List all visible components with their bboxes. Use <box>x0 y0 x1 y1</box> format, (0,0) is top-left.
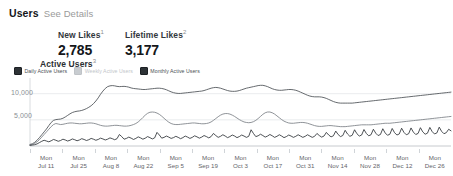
legend-label: Monthly Active Users <box>150 68 199 74</box>
metric-lifetime-likes-label: Lifetime Likes2 <box>125 27 187 41</box>
x-tick-weekday: Mon <box>353 154 387 162</box>
x-axis-tick-label: MonNov 14 <box>321 154 355 170</box>
legend-item-daily-active-users[interactable]: Daily Active Users <box>14 67 67 75</box>
x-tick-weekday: Mon <box>126 154 160 162</box>
x-tick-date: Aug 8 <box>94 162 128 170</box>
x-axis-tick-mark <box>224 149 225 153</box>
x-axis-tick-label: MonNov 28 <box>353 154 387 170</box>
x-tick-weekday: Mon <box>159 154 193 162</box>
metric-lifetime-likes: Lifetime Likes2 3,177 <box>125 27 187 58</box>
checkbox-icon[interactable] <box>140 67 148 75</box>
x-axis-tick-mark <box>192 149 193 153</box>
x-tick-weekday: Mon <box>29 154 63 162</box>
metric-new-likes-label: New Likes1 <box>58 27 104 41</box>
x-axis-tick-label: MonDec 26 <box>418 154 452 170</box>
x-axis-tick-mark <box>30 149 31 153</box>
x-axis-tick-label: MonAug 22 <box>126 154 160 170</box>
x-axis-tick-label: MonDec 12 <box>385 154 419 170</box>
x-tick-weekday: Mon <box>62 154 96 162</box>
chart-legend: Daily Active Users Weekly Active Users M… <box>14 67 200 75</box>
x-tick-weekday: Mon <box>256 154 290 162</box>
checkbox-icon[interactable] <box>14 67 22 75</box>
x-axis-tick-mark <box>321 149 322 153</box>
chart-plot-area <box>0 76 453 148</box>
x-tick-date: Nov 28 <box>353 162 387 170</box>
x-tick-weekday: Mon <box>191 154 225 162</box>
x-axis-tick-mark <box>127 149 128 153</box>
x-tick-date: Dec 12 <box>385 162 419 170</box>
legend-item-monthly-active-users[interactable]: Monthly Active Users <box>140 67 200 75</box>
series-line <box>30 112 451 145</box>
x-tick-weekday: Mon <box>385 154 419 162</box>
x-axis-tick-label: MonOct 31 <box>288 154 322 170</box>
x-axis-tick-mark <box>289 149 290 153</box>
metric-lifetime-likes-value: 3,177 <box>125 42 187 58</box>
legend-item-weekly-active-users[interactable]: Weekly Active Users <box>74 67 133 75</box>
footnote-marker: 2 <box>183 29 186 35</box>
x-axis-tick-label: MonSep 19 <box>191 154 225 170</box>
x-axis-tick-label: MonJul 11 <box>29 154 63 170</box>
see-details-link[interactable]: See Details <box>44 8 94 19</box>
x-tick-date: Nov 14 <box>321 162 355 170</box>
x-tick-date: Jul 25 <box>62 162 96 170</box>
legend-label: Weekly Active Users <box>85 68 133 74</box>
x-tick-weekday: Mon <box>94 154 128 162</box>
metric-new-likes: New Likes1 2,785 <box>58 27 104 58</box>
x-tick-weekday: Mon <box>321 154 355 162</box>
x-axis-tick-mark <box>354 149 355 153</box>
x-axis-tick-label: MonOct 3 <box>224 154 258 170</box>
x-axis: MonJul 11MonJul 25MonAug 8MonAug 22MonSe… <box>0 149 453 175</box>
y-axis-label-5000: 5,000 <box>14 112 32 119</box>
x-tick-date: Oct 3 <box>224 162 258 170</box>
x-tick-weekday: Mon <box>288 154 322 162</box>
x-axis-tick-mark <box>62 149 63 153</box>
footnote-marker: 3 <box>93 58 96 64</box>
x-tick-weekday: Mon <box>224 154 258 162</box>
x-tick-date: Dec 26 <box>418 162 452 170</box>
x-axis-tick-label: MonJul 25 <box>62 154 96 170</box>
users-insights-panel: Users See Details New Likes1 2,785 Lifet… <box>0 0 453 176</box>
x-axis-tick-label: MonSep 5 <box>159 154 193 170</box>
x-tick-date: Sep 19 <box>191 162 225 170</box>
metric-new-likes-value: 2,785 <box>58 42 104 58</box>
x-tick-date: Oct 31 <box>288 162 322 170</box>
active-users-line-chart <box>0 76 453 148</box>
x-tick-weekday: Mon <box>418 154 452 162</box>
x-tick-date: Sep 5 <box>159 162 193 170</box>
x-tick-date: Jul 11 <box>29 162 63 170</box>
series-line <box>30 127 451 145</box>
panel-header: Users See Details <box>9 7 93 19</box>
footnote-marker: 1 <box>100 29 103 35</box>
legend-label: Daily Active Users <box>25 68 68 74</box>
y-axis-label-10000: 10,000 <box>11 89 33 96</box>
metrics-row: New Likes1 2,785 Lifetime Likes2 3,177 <box>58 27 186 58</box>
x-tick-date: Oct 17 <box>256 162 290 170</box>
x-axis-tick-mark <box>95 149 96 153</box>
x-axis-tick-label: MonAug 8 <box>94 154 128 170</box>
x-axis-tick-mark <box>257 149 258 153</box>
page-title: Users <box>9 7 39 19</box>
x-tick-date: Aug 22 <box>126 162 160 170</box>
x-axis-tick-mark <box>386 149 387 153</box>
checkbox-icon[interactable] <box>74 67 82 75</box>
x-axis-tick-mark <box>419 149 420 153</box>
x-axis-tick-mark <box>160 149 161 153</box>
x-axis-tick-label: MonOct 17 <box>256 154 290 170</box>
